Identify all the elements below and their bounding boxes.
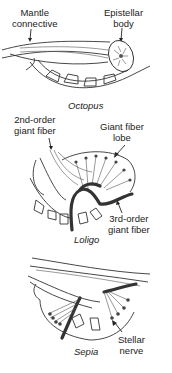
- label-line: Stellar: [118, 334, 145, 345]
- label-line: nerve: [118, 345, 145, 356]
- sepia-drawing: [0, 0, 172, 373]
- label-stellar-nerve: Stellar nerve: [118, 334, 145, 356]
- caption-sepia: Sepia: [74, 346, 98, 357]
